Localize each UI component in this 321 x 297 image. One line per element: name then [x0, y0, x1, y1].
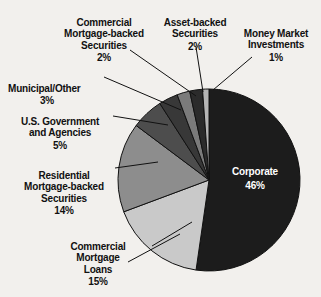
pie-label-text: Commercial Mortgage-backed Securities — [64, 17, 144, 51]
pie-label-percent: 5% — [4, 139, 116, 152]
pie-label-text: Money Market Investments — [244, 28, 308, 51]
pie-label-percent: 2% — [152, 40, 238, 53]
pie-label-residential-mortgage-backed-securities: Residential Mortgage-backed Securities 1… — [6, 158, 122, 229]
pie-label-percent: 2% — [48, 51, 160, 64]
pie-label-asset-backed-securities: Asset-backed Securities 2% — [152, 5, 238, 64]
pie-label-text: Municipal/Other — [8, 83, 81, 94]
pie-label-percent: 14% — [6, 204, 122, 217]
pie-label-text: Corporate — [232, 166, 278, 177]
pie-chart: Commercial Mortgage-backed Securities 2%… — [0, 0, 321, 297]
pie-label-percent: 46% — [218, 179, 292, 192]
pie-label-text: Asset-backed Securities — [164, 17, 227, 40]
pie-label-us-government-and-agencies: U.S. Government and Agencies 5% — [4, 104, 116, 163]
pie-label-percent: 1% — [232, 51, 320, 64]
pie-label-money-market-investments: Money Market Investments 1% — [232, 16, 320, 75]
pie-label-text: U.S. Government and Agencies — [21, 116, 99, 139]
pie-label-commercial-mortgage-backed-securities: Commercial Mortgage-backed Securities 2% — [48, 5, 160, 76]
pie-label-text: Residential Mortgage-backed Securities — [24, 170, 104, 204]
pie-label-text: Commercial Mortgage Loans — [70, 241, 125, 275]
pie-label-percent: 15% — [52, 275, 144, 288]
pie-label-commercial-mortgage-loans: Commercial Mortgage Loans 15% — [52, 229, 144, 297]
pie-label-corporate: Corporate 46% — [218, 165, 292, 192]
